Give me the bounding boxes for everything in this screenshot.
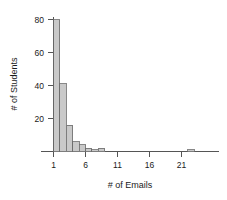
x-axis-title: # of Emails	[108, 180, 153, 190]
chart-canvas: 80 60 40 20 1 6 11 16 21 # of Emails # o…	[0, 0, 227, 200]
bar-series	[54, 20, 195, 152]
histogram-bar	[92, 150, 98, 152]
y-tick-label-80: 80	[35, 15, 45, 25]
y-tick-label-60: 60	[35, 48, 45, 58]
x-tick-label-1: 1	[51, 160, 56, 170]
histogram-bar	[66, 125, 72, 151]
x-axis-ticks	[54, 152, 182, 158]
x-tick-label-6: 6	[83, 160, 88, 170]
y-axis-title: # of Students	[9, 57, 19, 111]
y-tick-label-40: 40	[35, 81, 45, 91]
histogram-bar	[73, 142, 79, 152]
histogram-bar	[79, 145, 85, 152]
histogram-bar	[86, 148, 92, 151]
y-tick-label-20: 20	[35, 114, 45, 124]
histogram-bar	[188, 150, 194, 152]
x-tick-label-11: 11	[113, 160, 122, 170]
histogram-bar	[98, 148, 104, 151]
histogram-chart: 80 60 40 20 1 6 11 16 21 # of Emails # o…	[0, 0, 227, 200]
histogram-bar	[60, 84, 66, 152]
x-tick-label-16: 16	[145, 160, 155, 170]
x-tick-label-21: 21	[177, 160, 187, 170]
y-axis-ticks	[48, 20, 54, 119]
histogram-bar	[54, 20, 60, 152]
